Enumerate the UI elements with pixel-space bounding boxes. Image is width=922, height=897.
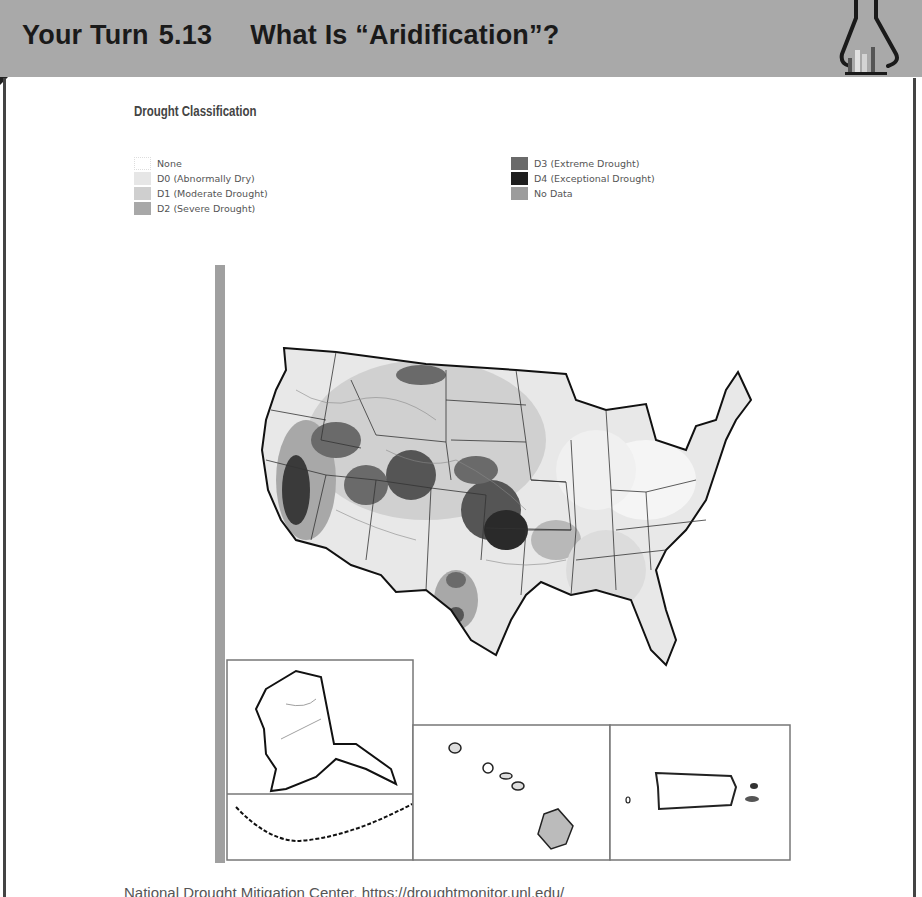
legend-item-d1: D1 (Moderate Drought) [134, 186, 268, 201]
legend-item-no-data: No Data [511, 186, 655, 201]
legend-column-right: D3 (Extreme Drought) D4 (Exceptional Dro… [511, 156, 655, 201]
heading-title: What Is “Aridification”? [250, 20, 559, 50]
legend-item-d3: D3 (Extreme Drought) [511, 156, 655, 171]
swatch-none [134, 157, 151, 170]
map-insets [226, 659, 792, 861]
legend-title: Drought Classification [134, 103, 256, 119]
swatch-d2 [134, 202, 151, 215]
heading-number: 5.13 [159, 20, 212, 50]
swatch-d4 [511, 172, 528, 185]
section-header: Your Turn5.13What Is “Aridification”? [0, 0, 922, 77]
frame-right-border [913, 78, 916, 897]
swatch-d3 [511, 157, 528, 170]
legend-label: D4 (Exceptional Drought) [534, 173, 655, 184]
us-drought-map [226, 330, 766, 680]
swatch-no-data [511, 187, 528, 200]
legend-label: D2 (Severe Drought) [157, 203, 255, 214]
legend-item-d0: D0 (Abnormally Dry) [134, 171, 268, 186]
heading-label: Your Turn [22, 20, 149, 50]
source-caption: National Drought Mitigation Center, http… [124, 884, 564, 897]
legend-label: No Data [534, 188, 573, 199]
swatch-d1 [134, 187, 151, 200]
legend-column-left: None D0 (Abnormally Dry) D1 (Moderate Dr… [134, 156, 268, 216]
legend-item-d4: D4 (Exceptional Drought) [511, 171, 655, 186]
legend-label: D1 (Moderate Drought) [157, 188, 268, 199]
hawaii-inset [413, 725, 610, 860]
legend-item-d2: D2 (Severe Drought) [134, 201, 268, 216]
flask-chart-icon [838, 0, 910, 78]
frame-left-border [3, 78, 6, 897]
legend-item-none: None [134, 156, 268, 171]
legend-label: None [157, 158, 182, 169]
swatch-d0 [134, 172, 151, 185]
legend-label: D3 (Extreme Drought) [534, 158, 639, 169]
map-side-bar [215, 265, 225, 863]
legend-label: D0 (Abnormally Dry) [157, 173, 255, 184]
section-heading: Your Turn5.13What Is “Aridification”? [22, 20, 559, 51]
